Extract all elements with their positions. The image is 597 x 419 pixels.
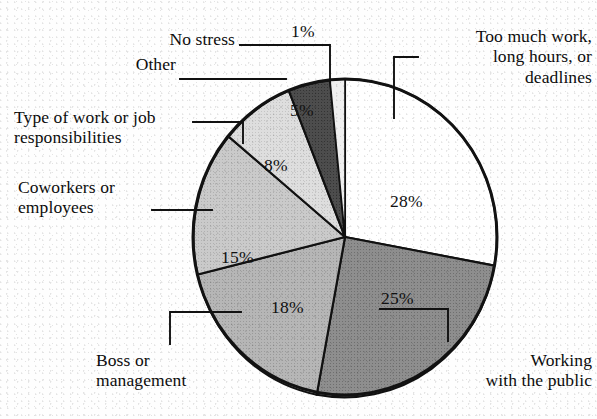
pie-chart-figure: Too much work, long hours, or deadlines … (0, 0, 597, 419)
slice-label-coworkers: Coworkers or employees (18, 177, 148, 218)
slice-value-working-public: 25% (381, 288, 414, 309)
slice-label-too-much-work: Too much work, long hours, or deadlines (424, 26, 592, 87)
slice-label-type-of-work: Type of work or job responsibilities (14, 107, 192, 148)
leader-no-stress (240, 45, 330, 82)
slice-value-boss: 18% (271, 297, 304, 318)
slice-value-no-stress: 1% (291, 21, 315, 42)
slice-label-no-stress: No stress (125, 29, 235, 49)
slice-label-other: Other (80, 54, 176, 74)
pie-slice-too-much-work[interactable] (345, 79, 497, 266)
slice-label-boss: Boss or management (96, 350, 246, 391)
slice-value-other: 5% (290, 100, 314, 121)
slice-value-coworkers: 15% (221, 247, 254, 268)
slice-label-working-public: Working with the public (436, 350, 592, 391)
slice-value-type-of-work: 8% (264, 155, 288, 176)
slice-value-too-much-work: 28% (390, 191, 423, 212)
